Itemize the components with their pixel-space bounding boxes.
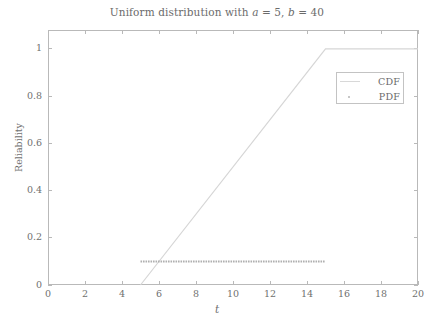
x-axis-label: t — [0, 303, 434, 315]
y-tick-label: 0.2 — [8, 231, 42, 242]
x-tick-label: 2 — [70, 288, 100, 299]
y-axis-label: Reliability — [13, 103, 24, 193]
x-tick-label: 6 — [144, 288, 174, 299]
legend-line-swatch-icon — [337, 75, 363, 89]
x-tick-label: 4 — [107, 288, 137, 299]
chart-legend: CDF PDF — [336, 72, 404, 104]
x-tick-label: 8 — [181, 288, 211, 299]
x-tick-label: 14 — [292, 288, 322, 299]
legend-label-pdf: PDF — [363, 91, 405, 102]
tick-marks — [48, 30, 418, 285]
y-tick-label: 1 — [8, 42, 42, 53]
x-tick-label: 12 — [255, 288, 285, 299]
chart-figure: Uniform distribution with a = 5, b = 40 … — [0, 0, 434, 327]
x-tick-label: 20 — [403, 288, 433, 299]
legend-label-cdf: CDF — [363, 76, 405, 87]
x-tick-label: 10 — [218, 288, 248, 299]
x-tick-label: 0 — [33, 288, 63, 299]
legend-dot-swatch-icon — [337, 90, 363, 104]
legend-item-pdf: PDF — [337, 89, 405, 104]
y-tick-label: 0.8 — [8, 90, 42, 101]
legend-item-cdf: CDF — [337, 74, 405, 89]
x-tick-label: 16 — [329, 288, 359, 299]
x-tick-label: 18 — [366, 288, 396, 299]
chart-canvas — [0, 0, 434, 327]
